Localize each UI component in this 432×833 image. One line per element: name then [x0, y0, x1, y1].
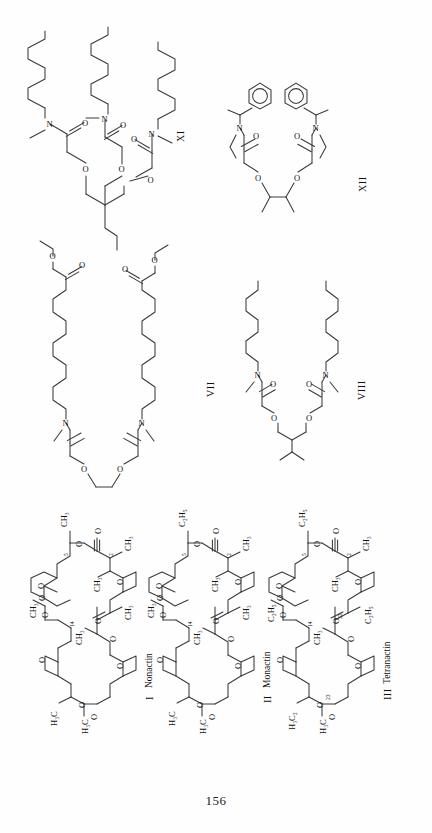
compound-label-ii-roman: II [263, 695, 273, 703]
atom-o: O [278, 612, 288, 618]
atom-o: O [50, 251, 56, 261]
atom-n: N [255, 370, 261, 380]
compound-name-nonactin: Nonactin [145, 653, 155, 688]
atom-o: O [353, 663, 363, 669]
structure-xi: O O O N N N O O O [28, 27, 175, 250]
atom-o: O [37, 595, 47, 601]
atom-o: O [108, 636, 118, 642]
atom-o: O [81, 464, 87, 474]
label-h3c: H₃C [198, 719, 208, 734]
position-number: 5 [181, 553, 187, 556]
atom-o: O [120, 120, 126, 130]
label-c2h5: C₂H₅ [297, 509, 307, 527]
compound-name-tetranactin: Tetranactin [383, 641, 393, 684]
atom-o: O [275, 657, 285, 663]
position-number: 5 [301, 553, 307, 556]
label-c2h5: C₂H₅ [266, 604, 276, 622]
atom-o: O [312, 541, 322, 547]
label-ch3: CH₃ [312, 630, 322, 645]
label-h3c: H₃C [80, 719, 90, 734]
structure-ii-monactin: C₂H₅ CH₃ CH₃ CH₃ CH₃ CH₃ H₃C H₃C O O O O… [146, 509, 254, 734]
atom-o: O [93, 528, 103, 534]
structure-xii: O O N N O O [228, 83, 328, 212]
label-h3c: H₃C [49, 711, 59, 726]
atom-o: O [115, 579, 125, 585]
atom-o: O [226, 636, 236, 642]
atom-o: O [233, 663, 243, 669]
atom-o: O [74, 541, 84, 547]
atom-o: O [207, 714, 217, 720]
label-h3c: H₃C [167, 711, 177, 726]
atom-n: N [63, 418, 69, 428]
atom-o: O [255, 173, 261, 183]
atom-o: O [36, 583, 46, 589]
atom-o: O [306, 379, 312, 389]
document-page: O O O N N N O O O [0, 0, 432, 833]
atom-n: N [313, 123, 319, 133]
compound-label-i-roman: I [145, 696, 155, 700]
compound-name-monactin: Monactin [263, 652, 273, 688]
atom-o: O [152, 255, 158, 265]
compound-label-iii-roman: III [383, 689, 393, 701]
atom-o: O [211, 528, 221, 534]
position-number: 2 [108, 553, 114, 556]
structure-viii: O O N N O O [246, 281, 338, 460]
atom-o: O [119, 164, 125, 174]
position-number: 5 [63, 553, 69, 556]
atom-o: O [274, 583, 284, 589]
label-h3c: H₃C [318, 719, 328, 734]
label-ch3: CH₃ [210, 577, 220, 592]
label-c2h5: C₂H₅ [177, 509, 187, 527]
atom-o: O [270, 379, 276, 389]
atom-o: O [158, 612, 168, 618]
atom-o: O [327, 714, 337, 720]
atom-o: O [37, 657, 47, 663]
compound-label-xi: XI [176, 130, 186, 142]
atom-o: O [346, 636, 356, 642]
position-number: 14 [187, 621, 193, 627]
atom-o: O [233, 579, 243, 585]
label-ch3: CH₃ [241, 605, 251, 620]
atom-o: O [89, 714, 99, 720]
structure-vii: O O N N O O O O [40, 241, 168, 487]
atom-o: O [192, 541, 202, 547]
label-ch3: CH₃ [361, 536, 371, 551]
label-ch3: CH₃ [28, 603, 38, 618]
atom-o: O [155, 657, 165, 663]
position-number: 2 [226, 553, 232, 556]
atom-n: N [323, 370, 329, 380]
atom-o: O [195, 702, 205, 708]
atom-o: O [271, 413, 277, 423]
atom-n: N [139, 418, 145, 428]
atom-o: O [148, 175, 154, 185]
atom-o: O [294, 173, 300, 183]
atom-o: O [115, 663, 125, 669]
atom-o: O [211, 618, 221, 624]
atom-n: N [47, 119, 53, 129]
position-number: 32 [337, 613, 343, 619]
atom-o: O [331, 528, 341, 534]
atom-o: O [40, 612, 50, 618]
position-number: 14 [307, 621, 313, 627]
atom-o: O [93, 618, 103, 624]
atom-o: O [154, 583, 164, 589]
label-ch3: CH₃ [92, 577, 102, 592]
atom-o: O [77, 702, 87, 708]
structure-iii-tetranactin: C₂H₅ CH₃ CH₃ C₂H₅ CH₃ C₂H₅ H₃C H₃C₂ O O … [266, 509, 374, 734]
atom-o: O [294, 131, 300, 141]
position-number: 23 [325, 694, 331, 700]
position-number: 2 [346, 553, 352, 556]
label-h3c2: H₃C₂ [287, 712, 297, 730]
atom-o: O [122, 264, 128, 274]
atom-o: O [83, 164, 89, 174]
label-ch3: CH₃ [192, 630, 202, 645]
structure-i-nonactin: CH₃ CH₃ CH₃ CH₃ CH₃ CH₃ H₃C H₃C O O O O … [28, 512, 136, 734]
label-c2h5: C₂H₅ [363, 606, 373, 624]
position-number: 14 [69, 621, 75, 627]
label-ch3: CH₃ [59, 512, 69, 527]
label-ch3: CH₃ [123, 605, 133, 620]
label-ch3: CH₃ [330, 577, 340, 592]
atom-o: O [155, 595, 165, 601]
compound-label-vii: VII [206, 381, 216, 397]
atom-o: O [253, 131, 259, 141]
